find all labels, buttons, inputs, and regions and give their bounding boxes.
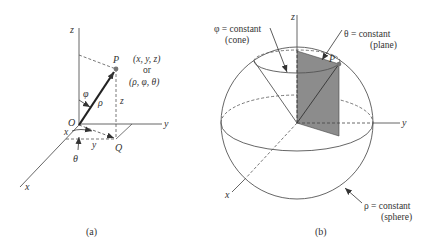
z-height-label-a: z xyxy=(119,96,124,106)
y-proj-label-a: y xyxy=(91,140,97,150)
dashed-z-to-P xyxy=(79,55,116,69)
rho-constant-sub: (sphere) xyxy=(381,212,412,223)
x-axis-b xyxy=(232,180,244,192)
rho-constant-label: ρ = constant xyxy=(364,201,411,211)
x-proj-label-a: x xyxy=(63,127,69,137)
point-P-dot-b xyxy=(337,62,342,67)
x-axis-label-b: x xyxy=(224,189,230,200)
caption-b: (b) xyxy=(315,226,327,238)
spherical-coords-label: (ρ, φ, θ) xyxy=(129,77,159,88)
caption-a: (a) xyxy=(86,226,97,238)
point-P-label-a: P xyxy=(112,54,119,65)
rho-label-a: ρ xyxy=(97,97,103,108)
x-axis-label-a: x xyxy=(24,181,30,192)
theta-constant-sub: (plane) xyxy=(370,40,397,51)
y-axis-label-b: y xyxy=(401,117,407,128)
cartesian-coords-label: (x, y, z) xyxy=(133,54,160,65)
dashed-O-to-Q xyxy=(79,125,114,138)
equator-front xyxy=(221,123,373,151)
cone-side-left xyxy=(254,61,297,123)
point-Q-label-a: Q xyxy=(115,142,123,153)
y-axis-label-a: y xyxy=(163,118,169,129)
phi-constant-sub: (cone) xyxy=(225,35,249,46)
z-axis-label-b: z xyxy=(290,11,295,22)
x-axis-a xyxy=(20,125,79,187)
phi-label-a: φ xyxy=(83,88,89,99)
z-axis-label-a: z xyxy=(69,24,74,35)
panel-a: z P (x, y, z) or (ρ, φ, θ) φ ρ z O x y Q… xyxy=(20,24,169,238)
theta-arc xyxy=(72,130,92,132)
q-to-y-axis xyxy=(116,124,132,139)
origin-label-a: O xyxy=(68,117,75,128)
x-axis-hidden-b xyxy=(244,123,297,180)
spherical-coordinates-figure: z P (x, y, z) or (ρ, φ, θ) φ ρ z O x y Q… xyxy=(0,0,427,251)
point-P-dot xyxy=(114,67,119,72)
panel-b: z y x P φ = constant (cone) θ = constant… xyxy=(214,11,412,238)
phi-arc xyxy=(79,100,90,107)
rho-leader xyxy=(345,188,362,203)
point-P-label-b: P xyxy=(328,53,335,64)
theta-label-a: θ xyxy=(73,153,78,164)
or-label: or xyxy=(143,65,152,75)
phi-constant-label: φ = constant xyxy=(214,24,262,34)
phi-leader xyxy=(270,28,287,72)
theta-constant-label: θ = constant xyxy=(344,29,391,39)
